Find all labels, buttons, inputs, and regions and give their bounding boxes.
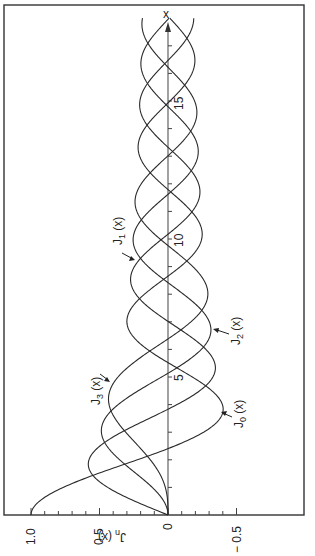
j-axis-ticks	[31, 508, 237, 515]
ann-j2-arrowhead-icon	[213, 328, 219, 333]
ann-j0-arg: (x)	[232, 400, 246, 417]
bessel-function-chart: x 5 10 15 1.0 0.5 0 − 0.5 Jn(x) J0 (x) J…	[0, 0, 315, 556]
curve-j-1-x	[88, 18, 215, 515]
j-tick-label-neg-0-5: − 0.5	[230, 526, 244, 553]
annotation-j3: J3 (x)	[89, 374, 110, 405]
x-axis-ticks	[168, 46, 172, 488]
ann-j2-arrow	[217, 330, 229, 334]
ann-j2-arg: (x)	[229, 317, 243, 334]
plot-frame	[4, 5, 304, 515]
annotation-j2: J2 (x)	[213, 317, 245, 345]
ann-j1-arg: (x)	[111, 217, 125, 234]
curve-j-3-x	[108, 18, 207, 515]
x-tick-label-10: 10	[172, 233, 186, 247]
j-axis-title-arg: (x)	[98, 530, 112, 544]
svg-text:J1 (x): J1 (x)	[111, 217, 127, 245]
ann-j3-arg: (x)	[89, 377, 103, 394]
annotation-j1: J1 (x)	[111, 217, 135, 261]
x-tick-label-15: 15	[172, 96, 186, 110]
x-tick-label-5: 5	[172, 374, 186, 381]
j-axis-title: Jn(x)	[98, 528, 126, 544]
curve-j-0-x	[31, 18, 223, 515]
bessel-curves	[31, 18, 223, 515]
x-axis-arrow-icon	[165, 22, 171, 32]
j-tick-label-0: 0	[161, 523, 175, 530]
j-axis-title-sub: n	[115, 528, 120, 538]
svg-text:J0 (x): J0 (x)	[232, 400, 248, 428]
svg-text:J3 (x): J3 (x)	[89, 377, 105, 405]
curve-j-2-x	[101, 18, 211, 515]
annotation-j0: J0 (x)	[221, 400, 248, 428]
j-tick-label-1: 1.0	[24, 528, 38, 545]
svg-text:J2 (x): J2 (x)	[229, 317, 245, 345]
